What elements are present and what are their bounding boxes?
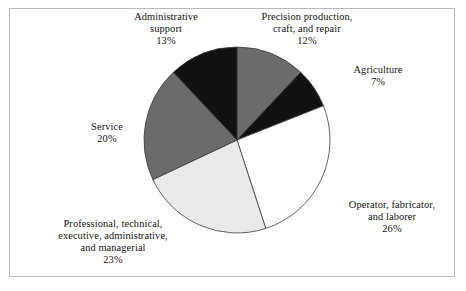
pie-label-administrative-support-percent: 13% xyxy=(101,35,231,47)
pie-label-service-percent: 20% xyxy=(62,133,152,145)
pie-label-service-line1: Service xyxy=(62,121,152,133)
pie-label-administrative-support-line1: Administrative xyxy=(101,11,231,23)
pie-label-operator-line2: and laborer xyxy=(326,211,458,223)
pie-label-operator-fabricator-laborer: Operator, fabricator, and laborer 26% xyxy=(326,199,458,235)
pie-label-professional-percent: 23% xyxy=(18,254,208,266)
pie-label-professional-line2: executive, administrative, xyxy=(18,230,208,242)
pie-label-professional-technical: Professional, technical, executive, admi… xyxy=(18,218,208,266)
pie-label-agriculture-percent: 7% xyxy=(320,76,436,88)
pie-label-precision-production-percent: 12% xyxy=(238,35,376,47)
pie-label-administrative-support: Administrative support 13% xyxy=(101,11,231,47)
pie-label-agriculture-line1: Agriculture xyxy=(320,64,436,76)
pie-label-operator-percent: 26% xyxy=(326,223,458,235)
pie-label-administrative-support-line2: support xyxy=(101,23,231,35)
pie-chart-figure: Administrative support 13% Precision pro… xyxy=(0,0,466,291)
pie-label-professional-line1: Professional, technical, xyxy=(18,218,208,230)
pie-label-professional-line3: and managerial xyxy=(18,242,208,254)
pie-label-precision-production-line2: craft, and repair xyxy=(238,23,376,35)
pie-label-service: Service 20% xyxy=(62,121,152,145)
pie-slice-group xyxy=(144,47,330,233)
pie-label-agriculture: Agriculture 7% xyxy=(320,64,436,88)
pie-label-operator-line1: Operator, fabricator, xyxy=(326,199,458,211)
pie-label-precision-production: Precision production, craft, and repair … xyxy=(238,11,376,47)
pie-label-precision-production-line1: Precision production, xyxy=(238,11,376,23)
